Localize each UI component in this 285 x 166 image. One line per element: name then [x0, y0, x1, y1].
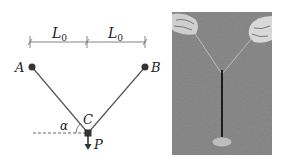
label-p: P: [93, 137, 103, 152]
weight-block: [85, 130, 92, 137]
label-b: B: [150, 60, 161, 75]
force-diagram: L0 L0 A B C P α: [0, 0, 170, 166]
dimension-line: [28, 36, 147, 48]
photo-illustration: [172, 12, 272, 155]
label-a: A: [14, 60, 24, 75]
rod-base: [212, 137, 232, 147]
label-c: C: [83, 112, 93, 127]
experiment-photo: [172, 12, 272, 155]
point-a-dot: [29, 64, 36, 71]
dimension-label-right: L0: [107, 25, 123, 43]
label-alpha: α: [60, 119, 68, 133]
arrow-down-icon: [85, 144, 92, 150]
point-b-dot: [142, 64, 149, 71]
dimension-label-left: L0: [51, 25, 67, 43]
string-bc: [88, 67, 145, 133]
angle-arc: [76, 124, 80, 133]
